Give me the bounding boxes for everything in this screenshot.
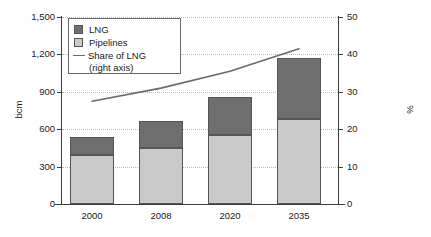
legend-swatch-lng-icon — [74, 25, 83, 34]
legend-swatch-pipelines-icon — [74, 38, 83, 47]
y-label-right-0: 0 — [347, 199, 352, 209]
y-axis-right-line — [338, 16, 339, 205]
y-tick-right-20 — [339, 129, 343, 130]
legend-item-pipelines: Pipelines — [74, 36, 175, 49]
legend-sublabel-share-axis: (right axis) — [74, 62, 175, 74]
y-label-left-1500: 1,500 — [31, 12, 55, 22]
y-label-left-600: 600 — [39, 124, 55, 134]
y-tick-right-30 — [339, 92, 343, 93]
legend-label-share: Share of LNG — [88, 50, 146, 61]
y-label-left-0: 0 — [50, 199, 55, 209]
y-label-left-900: 900 — [39, 87, 55, 97]
legend-item-lng: LNG — [74, 23, 175, 36]
y-tick-left-600 — [57, 129, 61, 130]
chart-legend: LNG Pipelines Share of LNG (right axis) — [68, 18, 181, 74]
x-label-2035: 2035 — [269, 210, 329, 221]
y-label-left-300: 300 — [39, 162, 55, 172]
legend-swatch-line-icon — [73, 55, 85, 56]
y-tick-left-300 — [57, 167, 61, 168]
x-label-2000: 2000 — [62, 210, 122, 221]
x-label-2020: 2020 — [200, 210, 260, 221]
legend-label-lng: LNG — [89, 24, 109, 35]
y-label-right-40: 40 — [347, 49, 358, 59]
legend-item-share: Share of LNG — [74, 49, 175, 62]
y-tick-right-50 — [339, 17, 343, 18]
legend-label-pipelines: Pipelines — [89, 37, 128, 48]
y-tick-left-1500 — [57, 17, 61, 18]
y-tick-right-0 — [339, 204, 343, 205]
y-tick-right-10 — [339, 167, 343, 168]
y-label-right-50: 50 — [347, 12, 358, 22]
y-axis-right-title: % — [404, 96, 415, 124]
y-label-right-10: 10 — [347, 162, 358, 172]
y-label-right-30: 30 — [347, 87, 358, 97]
x-axis-line — [55, 204, 345, 205]
y-label-right-20: 20 — [347, 124, 358, 134]
y-axis-left-title: bcm — [13, 96, 24, 124]
y-tick-left-0 — [57, 204, 61, 205]
chart-container: 1,500 1,200 900 600 300 0 50 40 30 20 10… — [0, 0, 431, 237]
y-tick-left-900 — [57, 92, 61, 93]
y-label-left-1200: 1,200 — [31, 49, 55, 59]
x-label-2008: 2008 — [131, 210, 191, 221]
y-tick-left-1200 — [57, 54, 61, 55]
y-tick-right-40 — [339, 54, 343, 55]
